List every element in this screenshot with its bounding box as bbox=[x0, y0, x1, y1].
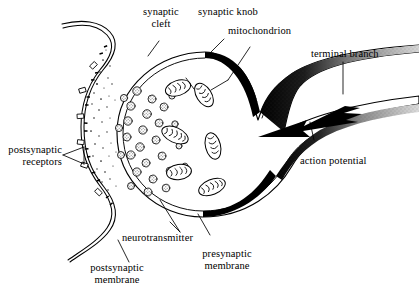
postsynaptic-membrane-ticks bbox=[84, 46, 113, 205]
neurotransmitter-dots bbox=[90, 49, 117, 190]
label-mitochondrion: mitochondrion bbox=[228, 25, 318, 37]
postsynaptic-membrane-shape bbox=[62, 21, 116, 262]
postsynaptic-receptors-pointer bbox=[63, 147, 84, 164]
label-action-potential: action potential bbox=[300, 155, 404, 167]
label-terminal-branch: terminal branch bbox=[311, 48, 411, 60]
label-neurotransmitter: neurotransmitter bbox=[122, 232, 228, 244]
label-presynaptic-membrane: presynaptic membrane bbox=[186, 248, 268, 271]
label-synaptic-knob: synaptic knob bbox=[189, 6, 267, 18]
label-synaptic-cleft: synaptic cleft bbox=[133, 6, 189, 29]
label-postsynaptic-receptors: postsynaptic receptors bbox=[0, 144, 62, 167]
synapse-diagram-figure: synaptic cleft synaptic knob mitochondri… bbox=[0, 0, 419, 302]
label-postsynaptic-membrane: postsynaptic membrane bbox=[73, 262, 161, 285]
